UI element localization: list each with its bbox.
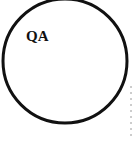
circle-label-qa: QA <box>26 29 49 44</box>
qa-circle <box>3 0 127 123</box>
diagram-canvas <box>0 0 134 142</box>
